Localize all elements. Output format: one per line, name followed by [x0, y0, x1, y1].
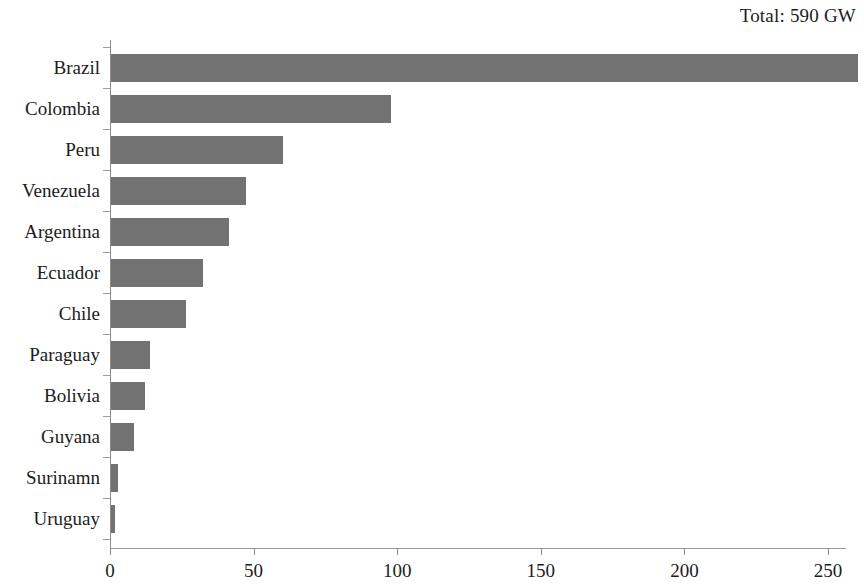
- chart-title: Total: 590 GW: [740, 4, 856, 28]
- y-axis-tick: [103, 293, 110, 294]
- x-axis-tick: [684, 548, 685, 555]
- y-axis-tick: [103, 416, 110, 417]
- category-label: Chile: [0, 304, 100, 324]
- bar: [111, 423, 134, 451]
- y-axis-tick: [103, 539, 110, 540]
- bar: [111, 136, 283, 164]
- category-label: Colombia: [0, 99, 100, 119]
- x-axis-tick: [828, 548, 829, 555]
- bar: [111, 382, 145, 410]
- x-axis-tick-label: 100: [383, 559, 412, 583]
- plot-area: BrazilColombiaPeruVenezuelaArgentinaEcua…: [110, 40, 864, 548]
- category-label: Surinamn: [0, 468, 100, 488]
- category-label: Ecuador: [0, 263, 100, 283]
- x-axis-tick-label: 200: [670, 559, 699, 583]
- bar: [111, 300, 186, 328]
- category-label: Brazil: [0, 58, 100, 78]
- y-axis-tick: [103, 129, 110, 130]
- category-label: Argentina: [0, 222, 100, 242]
- x-axis-tick-label: 50: [244, 559, 263, 583]
- category-label: Guyana: [0, 427, 100, 447]
- bar: [111, 341, 150, 369]
- y-axis-tick: [103, 211, 110, 212]
- category-label: Peru: [0, 140, 100, 160]
- y-axis-tick: [103, 498, 110, 499]
- bar: [111, 95, 391, 123]
- y-axis-tick: [103, 170, 110, 171]
- bar: [111, 505, 115, 533]
- y-axis-tick: [103, 88, 110, 89]
- y-axis-tick: [103, 47, 110, 48]
- x-axis-tick: [541, 548, 542, 555]
- x-axis-tick-label: 0: [105, 559, 115, 583]
- bar: [111, 259, 203, 287]
- bar: [111, 464, 118, 492]
- y-axis-tick: [103, 375, 110, 376]
- category-label: Bolivia: [0, 386, 100, 406]
- y-axis-tick: [103, 252, 110, 253]
- x-axis-tick: [397, 548, 398, 555]
- bar: [111, 177, 246, 205]
- x-axis-line: [110, 548, 846, 549]
- category-label: Venezuela: [0, 181, 100, 201]
- bar: [111, 218, 229, 246]
- category-label: Paraguay: [0, 345, 100, 365]
- x-axis-tick: [254, 548, 255, 555]
- y-axis-tick: [103, 334, 110, 335]
- bar: [111, 54, 858, 82]
- x-axis-tick: [110, 548, 111, 555]
- y-axis-tick: [103, 457, 110, 458]
- x-axis-tick-label: 150: [527, 559, 556, 583]
- category-axis-labels: BrazilColombiaPeruVenezuelaArgentinaEcua…: [0, 40, 100, 548]
- x-axis-tick-label: 250: [814, 559, 843, 583]
- category-label: Uruguay: [0, 509, 100, 529]
- bar-chart: Total: 590 GW BrazilColombiaPeruVenezuel…: [0, 0, 864, 584]
